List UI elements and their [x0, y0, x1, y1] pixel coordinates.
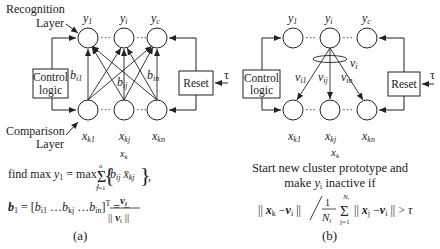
recognition-node-c: [147, 28, 167, 48]
ellipsis: ···: [342, 103, 353, 115]
node-label-xk1: xk1: [287, 129, 301, 144]
recognition-node-i: [320, 28, 340, 48]
svg-text:vi: vi: [120, 194, 127, 208]
formula-new-cluster: || xk −vi || 1 Ni Ni Σ j=1 || xj −vi || …: [258, 193, 413, 226]
svg-text:find max y1 = max: find max y1 = max: [8, 167, 97, 182]
svg-text:bij x̄kj: bij x̄kj: [110, 167, 135, 182]
ellipsis: ···: [305, 31, 316, 43]
reset-to-comparison-arrow: [379, 96, 404, 110]
comparison-node-1: [283, 100, 303, 120]
control-logic-label-2: logic: [39, 84, 62, 97]
recognition-layer-label-2: Layer: [36, 16, 64, 30]
control-logic-label-2: logic: [250, 84, 273, 97]
control-logic-label: Control: [244, 72, 279, 84]
reset-label: Reset: [183, 77, 209, 89]
svg-text:Ni: Ni: [342, 193, 350, 201]
svg-text:Σ: Σ: [340, 203, 349, 219]
reset-to-recognition-arrow: [379, 38, 404, 72]
input-vector-label: xk: [119, 148, 128, 161]
comparison-node-j: [320, 100, 340, 120]
ellipsis: ···: [100, 31, 111, 43]
svg-text:|| xj −vi || > τ: || xj −vi || > τ: [354, 203, 413, 218]
svg-text:j=1: j=1: [95, 184, 106, 192]
control-to-comparison-arrow: [262, 98, 281, 110]
comparison-layer-label: Comparison: [6, 124, 65, 138]
tau-label: τ: [224, 68, 229, 82]
weight-label-bi1: bi1: [70, 68, 82, 83]
control-to-comparison-arrow: [52, 98, 76, 110]
ellipsis: ···: [100, 103, 111, 115]
condition-text-line-1: Start new cluster prototype and: [252, 161, 409, 175]
input-vector-label: xk: [330, 146, 340, 160]
art-network-diagram: Recognition Layer y1 yi yc ··· ··· ··· ·…: [0, 0, 440, 249]
svg-text:1: 1: [325, 197, 330, 208]
formula-b-vector: b1 = [bi1 …bkj …bin]T = − vi || vi ||: [8, 194, 140, 225]
reset-to-comparison-arrow: [169, 95, 196, 110]
recognition-layer-label: Recognition: [6, 2, 65, 16]
svg-text:j=1: j=1: [339, 218, 350, 226]
svg-text:Ni: Ni: [321, 211, 331, 225]
recognition-node-c: [357, 28, 377, 48]
node-label-xk1: xk1: [81, 129, 95, 144]
comparison-layer-label-2: Layer: [36, 137, 64, 151]
svg-text:Σ: Σ: [97, 168, 106, 185]
control-to-recognition-arrow: [262, 38, 281, 70]
reset-to-recognition-arrow: [169, 38, 196, 71]
weight-label-vin: vin: [341, 70, 353, 85]
recognition-node-i: [114, 28, 134, 48]
caption-a: (a): [73, 228, 87, 243]
weight-label-vi1: vi1: [295, 70, 307, 85]
node-label-xkn: xkn: [151, 129, 165, 144]
ellipsis: ···: [136, 31, 147, 43]
recognition-pointer-arrow: [66, 24, 78, 33]
ellipsis: ···: [305, 103, 316, 115]
caption-b: (b): [322, 228, 337, 243]
recognition-node-1: [78, 28, 98, 48]
node-label-xkn: xkn: [361, 129, 375, 144]
comparison-node-n: [147, 100, 167, 120]
panel-a: Recognition Layer y1 yi yc ··· ··· ··· ·…: [6, 2, 229, 243]
svg-text:|| vi ||: || vi ||: [108, 211, 129, 225]
comparison-node-n: [357, 100, 377, 120]
node-label-yc: yc: [150, 11, 160, 26]
panel-b: y1 yi yc ··· ··· ··· ··· vi vi1 vij vin …: [243, 11, 435, 243]
node-label-yc: yc: [361, 11, 371, 26]
control-to-recognition-arrow: [52, 38, 76, 69]
control-logic-label: Control: [33, 71, 68, 83]
svg-text:,: ,: [148, 169, 151, 183]
ellipsis: ···: [342, 31, 353, 43]
tau-label: τ: [430, 68, 435, 82]
comparison-node-j: [114, 100, 134, 120]
svg-text:|| xk −vi ||: || xk −vi ||: [258, 203, 301, 218]
node-label-xkj: xkj: [324, 129, 337, 144]
comparison-node-1: [78, 100, 98, 120]
condition-text-line-2: make yi inactive if: [284, 176, 376, 191]
reset-label: Reset: [391, 78, 417, 90]
node-label-xkj: xkj: [118, 129, 131, 144]
formula-find-max: find max y1 = max i { a Σ j=1 bij x̄kj }…: [8, 162, 151, 192]
comparison-pointer-arrow: [66, 122, 78, 135]
recognition-node-1: [283, 28, 303, 48]
node-label-y1: y1: [82, 11, 92, 26]
ellipsis: ···: [136, 103, 147, 115]
node-label-yi: yi: [324, 11, 333, 26]
vector-label-vi: vi: [350, 56, 358, 71]
weight-label-bij: bij: [117, 75, 128, 90]
weight-label-vij: vij: [318, 70, 329, 85]
node-label-yi: yi: [119, 11, 128, 26]
node-label-y1: y1: [287, 11, 297, 26]
